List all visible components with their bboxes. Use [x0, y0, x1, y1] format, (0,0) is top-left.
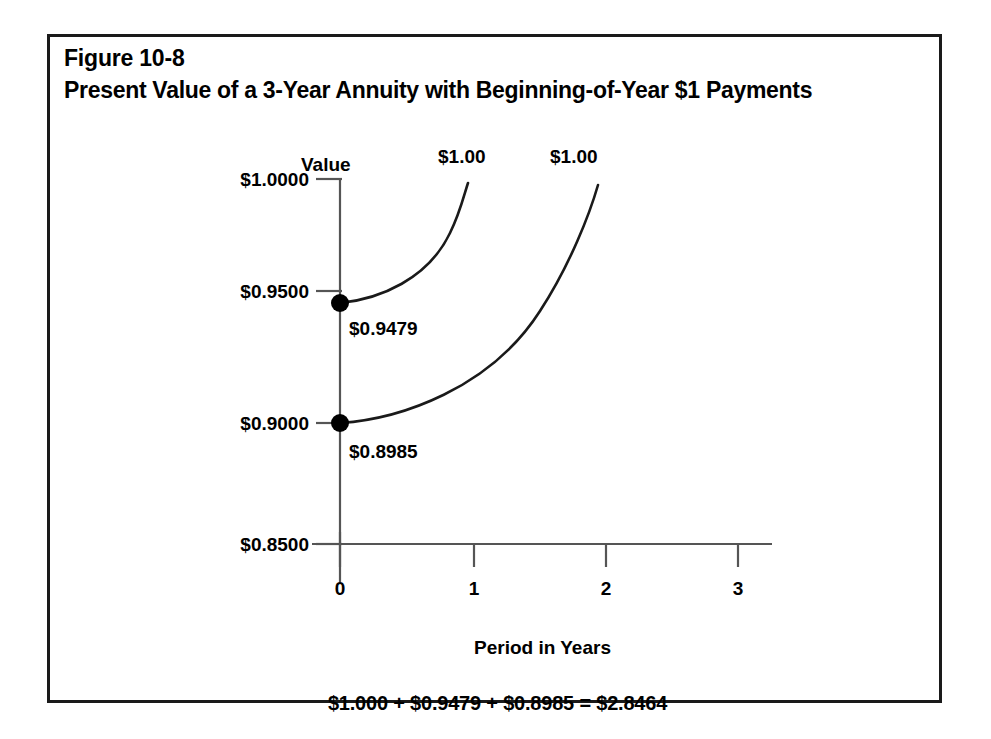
x-axis-tick-label-0: 0 — [320, 578, 360, 600]
x-axis-tick-label-3: 3 — [718, 578, 758, 600]
data-point-label-0-9479: $0.9479 — [349, 318, 418, 340]
curve-end-label-second: $1.00 — [550, 146, 598, 168]
y-axis-tick-label-0-9500: $0.9500 — [189, 281, 309, 303]
x-axis-tick-label-1: 1 — [454, 578, 494, 600]
data-point-label-0-8985: $0.8985 — [349, 441, 418, 463]
x-axis-tick-label-2: 2 — [586, 578, 626, 600]
curve-discount-2-year — [340, 185, 598, 423]
summary-equation: $1.000 + $0.9479 + $0.8985 = $2.8464 — [50, 692, 945, 715]
curve-end-label-first: $1.00 — [438, 146, 486, 168]
chart-plot-area — [50, 37, 945, 706]
data-point-marker-0-9479 — [331, 294, 349, 312]
y-axis-tick-label-0-9000: $0.9000 — [189, 413, 309, 435]
data-point-marker-0-8985 — [331, 414, 349, 432]
y-axis-tick-label-1-0000: $1.0000 — [189, 169, 309, 191]
y-axis-tick-label-0-8500: $0.8500 — [189, 534, 309, 556]
curve-discount-1-year — [340, 183, 468, 303]
x-axis-title: Period in Years — [474, 637, 611, 659]
figure-frame: Figure 10-8 Present Value of a 3-Year An… — [47, 34, 942, 703]
